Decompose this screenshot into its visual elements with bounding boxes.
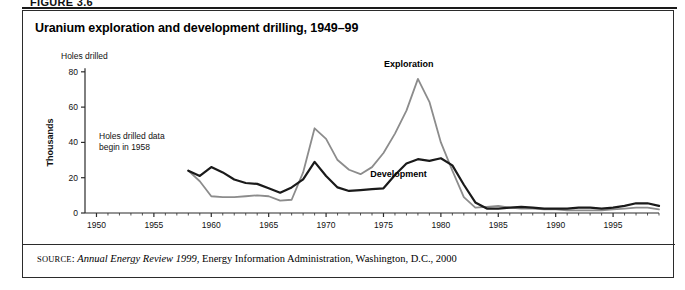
x-tick-label: 1990 bbox=[546, 220, 565, 230]
series-label-exploration: Exploration bbox=[384, 59, 434, 69]
y-tick-label: 20 bbox=[69, 173, 79, 183]
x-tick-label: 1980 bbox=[431, 220, 450, 230]
x-tick-label: 1960 bbox=[202, 220, 221, 230]
y-tick-label: 80 bbox=[69, 67, 79, 77]
source-rest: , Energy Information Administration, Was… bbox=[197, 253, 457, 264]
header-divider bbox=[22, 7, 677, 9]
source-prefix: SOURCE bbox=[37, 254, 72, 264]
x-tick-label: 1955 bbox=[144, 220, 163, 230]
y-axis-header: Holes drilled bbox=[61, 51, 108, 61]
x-tick-label: 1965 bbox=[259, 220, 278, 230]
x-tick-label: 1985 bbox=[489, 220, 508, 230]
source-note: SOURCE: Annual Energy Review 1999, Energ… bbox=[37, 253, 665, 264]
annotation-line-2: begin in 1958 bbox=[99, 142, 150, 152]
series-label-development: Development bbox=[370, 169, 427, 179]
annotation-line-1: Holes drilled data bbox=[99, 131, 165, 141]
y-axis-unit-label: Thousands bbox=[45, 118, 55, 166]
x-tick-label: 1950 bbox=[87, 220, 106, 230]
x-tick-label: 1995 bbox=[604, 220, 623, 230]
series-line-exploration bbox=[188, 79, 659, 210]
source-divider bbox=[23, 244, 675, 245]
source-publication: Annual Energy Review 1999 bbox=[77, 253, 196, 264]
x-tick-label: 1970 bbox=[317, 220, 336, 230]
uranium-drilling-line-chart: 020406080Holes drilledThousands195019551… bbox=[23, 11, 675, 279]
figure-box: Uranium exploration and development dril… bbox=[22, 10, 674, 278]
chart-plot-area: 020406080Holes drilledThousands195019551… bbox=[23, 11, 675, 279]
y-tick-label: 40 bbox=[69, 137, 79, 147]
x-tick-label: 1975 bbox=[374, 220, 393, 230]
series-line-development bbox=[188, 158, 659, 208]
y-tick-label: 60 bbox=[69, 102, 79, 112]
y-tick-label: 0 bbox=[73, 208, 78, 218]
